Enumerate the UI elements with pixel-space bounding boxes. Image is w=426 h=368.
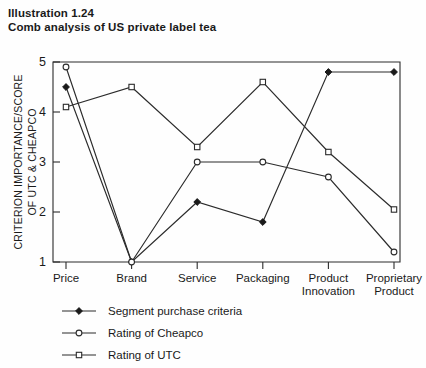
series-rating-of-cheapco	[63, 64, 397, 265]
marker-filled-diamond	[259, 219, 266, 226]
marker-open-circle	[326, 174, 332, 180]
x-tick-label: Price	[53, 272, 79, 284]
legend-item: Rating of Cheapco	[62, 327, 203, 339]
marker-open-square	[260, 79, 265, 84]
comb-analysis-line-chart: CRITERION IMPORTANCE/SCOREOF UTC & CHEAP…	[0, 0, 426, 368]
x-axis-ticks: PriceBrandServicePackagingProductInnovat…	[53, 262, 422, 297]
x-tick-label: Service	[178, 272, 216, 284]
marker-open-square	[63, 104, 68, 109]
chart-svg: CRITERION IMPORTANCE/SCOREOF UTC & CHEAP…	[0, 0, 426, 368]
series-line	[66, 82, 394, 210]
y-tick-label: 5	[39, 55, 46, 69]
x-tick-label: Brand	[116, 272, 147, 284]
x-tick-label: Product	[374, 285, 414, 297]
series-segment-purchase-criteria	[63, 69, 398, 266]
y-axis-title-line2: OF UTC & CHEAPCO	[26, 108, 38, 215]
x-tick-label: Product	[309, 272, 349, 284]
marker-open-circle	[194, 159, 200, 165]
x-tick-label: Proprietary	[366, 272, 422, 284]
y-tick-label: 1	[39, 255, 46, 269]
y-axis-title-text-1: CRITERION IMPORTANCE/SCORE	[12, 74, 24, 249]
y-axis-title: CRITERION IMPORTANCE/SCOREOF UTC & CHEAP…	[12, 74, 38, 249]
chart-legend: Segment purchase criteriaRating of Cheap…	[62, 305, 243, 361]
y-tick-label: 2	[39, 205, 46, 219]
marker-open-square-legend	[76, 352, 81, 357]
marker-open-circle	[63, 64, 69, 70]
marker-open-circle	[391, 249, 397, 255]
marker-open-square	[195, 144, 200, 149]
y-axis-title-line1: CRITERION IMPORTANCE/SCORE	[12, 74, 24, 249]
marker-open-square	[326, 149, 331, 154]
marker-open-circle	[260, 159, 266, 165]
x-tick-label: Packaging	[236, 272, 290, 284]
marker-open-circle	[129, 259, 135, 265]
legend-label: Segment purchase criteria	[108, 305, 243, 317]
legend-item: Segment purchase criteria	[62, 305, 243, 317]
legend-label: Rating of Cheapco	[108, 327, 203, 339]
y-tick-label: 3	[39, 155, 46, 169]
marker-filled-diamond	[325, 69, 332, 76]
marker-open-square	[129, 84, 134, 89]
marker-filled-diamond	[391, 69, 398, 76]
legend-label: Rating of UTC	[108, 349, 181, 361]
y-tick-label: 4	[39, 105, 46, 119]
chart-page: Illustration 1.24 Comb analysis of US pr…	[0, 0, 426, 368]
marker-filled-diamond	[63, 84, 70, 91]
marker-open-circle-legend	[76, 330, 82, 336]
legend-item: Rating of UTC	[62, 349, 181, 361]
marker-filled-diamond-legend	[76, 308, 83, 315]
y-axis-ticks: 12345	[39, 55, 60, 269]
series-line	[66, 67, 394, 262]
y-axis-title-text-2: OF UTC & CHEAPCO	[26, 108, 38, 215]
series-rating-of-utc	[63, 79, 396, 212]
marker-open-square	[391, 207, 396, 212]
x-tick-label: Innovation	[302, 285, 355, 297]
series-group	[63, 64, 398, 265]
